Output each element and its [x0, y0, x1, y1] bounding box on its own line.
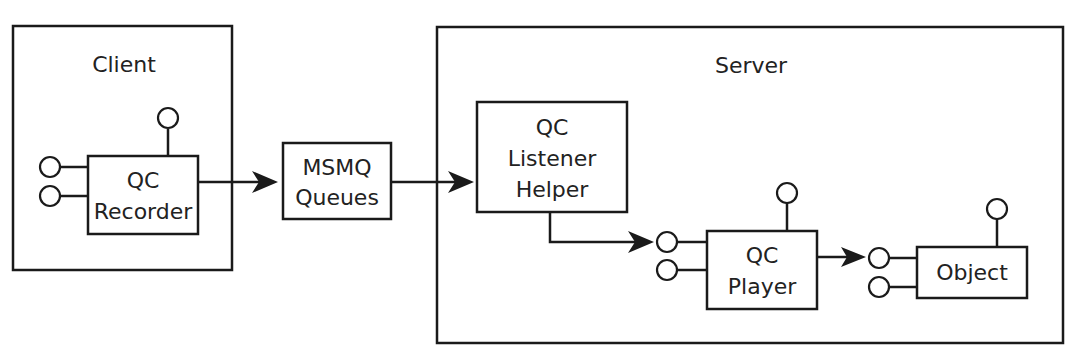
interface-lollipop-icon: [40, 186, 60, 206]
object-component: Object: [869, 199, 1027, 298]
arrow-recorder-to-msmq: [198, 171, 278, 193]
interface-lollipop-icon: [657, 260, 677, 280]
listener-label-line3: Helper: [516, 177, 590, 202]
interface-lollipop-icon: [777, 183, 797, 203]
qc-player-label-line2: Player: [728, 274, 797, 299]
qc-recorder-label-line2: Recorder: [94, 199, 194, 224]
qc-recorder-label-line1: QC: [127, 168, 160, 193]
arrow-listener-to-player: [550, 212, 654, 253]
interface-lollipop-icon: [657, 232, 677, 252]
listener-label-line2: Listener: [508, 146, 597, 171]
qc-listener-helper-component: QC Listener Helper: [477, 102, 627, 212]
qc-player-label-line1: QC: [746, 243, 779, 268]
msmq-queues-component: MSMQ Queues: [283, 143, 391, 219]
server-label: Server: [715, 53, 788, 78]
object-label: Object: [936, 260, 1008, 285]
msmq-label-line1: MSMQ: [302, 155, 371, 180]
diagram-canvas: Client Server QC Recorder MSMQ Queues QC…: [0, 0, 1073, 355]
qc-recorder-component: QC Recorder: [40, 108, 198, 234]
interface-lollipop-icon: [158, 108, 178, 128]
interface-lollipop-icon: [869, 277, 889, 297]
msmq-label-line2: Queues: [295, 185, 379, 210]
qc-player-component: QC Player: [657, 183, 817, 309]
arrow-line: [550, 212, 638, 242]
interface-lollipop-icon: [987, 199, 1007, 219]
client-label: Client: [92, 52, 156, 77]
listener-label-line1: QC: [536, 115, 569, 140]
arrow-player-to-object: [817, 247, 866, 267]
interface-lollipop-icon: [869, 248, 889, 268]
arrow-msmq-to-listener: [391, 171, 474, 193]
interface-lollipop-icon: [40, 157, 60, 177]
